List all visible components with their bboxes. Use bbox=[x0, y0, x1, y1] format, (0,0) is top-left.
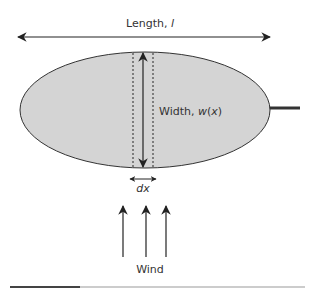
lift-diagram: Length, l Width, w(x) dx Wind bbox=[0, 0, 317, 288]
width-label: Width, w(x) bbox=[159, 105, 222, 118]
elliptical-body bbox=[20, 52, 270, 168]
wind-label: Wind bbox=[136, 263, 164, 276]
wind-arrows-icon bbox=[123, 206, 166, 257]
length-label: Length, l bbox=[126, 17, 174, 30]
dx-label: dx bbox=[136, 182, 150, 195]
